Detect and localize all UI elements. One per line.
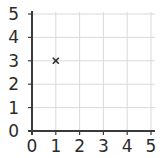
x-tick-label: 5 — [146, 136, 157, 156]
x-tick-label: 4 — [122, 136, 133, 156]
y-tick-label: 0 — [8, 121, 19, 141]
y-axis-tick-labels: 012345 — [8, 4, 19, 141]
coordinate-grid-chart: 012345 012345 — [0, 0, 165, 158]
y-tick-label: 4 — [8, 27, 19, 47]
x-tick-label: 1 — [50, 136, 61, 156]
y-tick-label: 5 — [8, 4, 19, 24]
x-tick-label: 2 — [74, 136, 85, 156]
y-tick-label: 3 — [8, 51, 19, 71]
y-tick-label: 2 — [8, 74, 19, 94]
grid-lines — [32, 12, 155, 131]
x-axis-tick-labels: 012345 — [27, 136, 157, 156]
x-tick-label: 3 — [98, 136, 109, 156]
axes — [28, 11, 155, 135]
x-tick-label: 0 — [27, 136, 38, 156]
y-tick-label: 1 — [8, 98, 19, 118]
